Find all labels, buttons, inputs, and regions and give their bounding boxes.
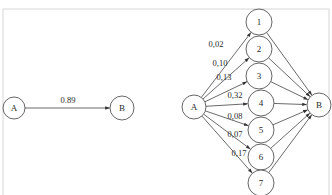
node-right-n7: 7 bbox=[248, 170, 274, 195]
edge-weight-label: 0,07 bbox=[228, 129, 243, 139]
nodes-layer: ABA1234567B bbox=[3, 9, 331, 195]
node-right-n6: 6 bbox=[248, 144, 274, 170]
node-right-n3: 3 bbox=[246, 63, 272, 89]
edge-n5-to-B bbox=[273, 110, 308, 125]
edge-weight-label: 0,32 bbox=[228, 90, 243, 100]
edge-n1-to-B bbox=[267, 33, 312, 95]
node-label: 7 bbox=[259, 178, 264, 188]
node-right-B: B bbox=[307, 93, 331, 117]
node-right-n1: 1 bbox=[246, 9, 272, 35]
edge-weight-label: 0,08 bbox=[228, 111, 243, 121]
edge-weight-label: 0,17 bbox=[232, 148, 247, 158]
edge-n6-to-B bbox=[271, 113, 310, 148]
edge-weight-label: 0,10 bbox=[213, 58, 228, 68]
node-label: B bbox=[316, 100, 322, 110]
node-right-n5: 5 bbox=[248, 117, 274, 143]
node-label: 6 bbox=[259, 152, 264, 162]
edge-A-to-n4 bbox=[206, 104, 248, 106]
node-label: 4 bbox=[259, 98, 264, 108]
edge-n4-to-B bbox=[274, 103, 307, 104]
node-right-n2: 2 bbox=[246, 36, 272, 62]
edge-labels-layer: 0.890,020,100,130,320,080,070,17 bbox=[61, 39, 247, 158]
edge-weight-label: 0,13 bbox=[217, 72, 232, 82]
node-left-B: B bbox=[110, 96, 134, 120]
node-label: 5 bbox=[259, 125, 264, 135]
node-right-n4: 4 bbox=[248, 90, 274, 116]
node-label: A bbox=[191, 102, 198, 112]
edge-weight-label: 0.89 bbox=[61, 95, 76, 105]
node-label: 3 bbox=[257, 71, 262, 81]
node-left-A: A bbox=[3, 97, 25, 119]
node-right-A: A bbox=[182, 95, 206, 119]
flow-diagram: 0.890,020,100,130,320,080,070,17 ABA1234… bbox=[0, 0, 332, 195]
edge-weight-label: 0,02 bbox=[209, 39, 224, 49]
frame bbox=[3, 9, 329, 195]
node-label: 2 bbox=[257, 44, 262, 54]
node-label: 1 bbox=[257, 17, 262, 27]
edge-n3-to-B bbox=[271, 82, 308, 100]
node-label: B bbox=[119, 103, 125, 113]
node-label: A bbox=[11, 103, 18, 113]
